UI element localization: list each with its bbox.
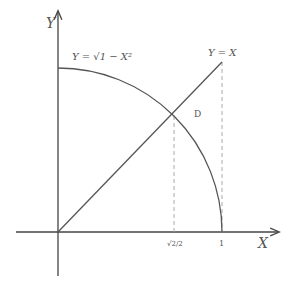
region-label: D [194, 109, 201, 119]
circle-curve-label: Y = √1 − X² [72, 51, 132, 62]
line-curve-label: Y = X [208, 47, 237, 58]
y-axis-label: Y [46, 15, 57, 31]
tick-label-sqrt2-2: √2/2 [167, 240, 183, 248]
diagram: Y X Y = √1 − X² Y = X D √2/2 1 [0, 0, 284, 284]
x-axis-label: X [257, 235, 269, 251]
line-y-equals-x [58, 62, 222, 232]
tick-label-1: 1 [219, 239, 224, 248]
